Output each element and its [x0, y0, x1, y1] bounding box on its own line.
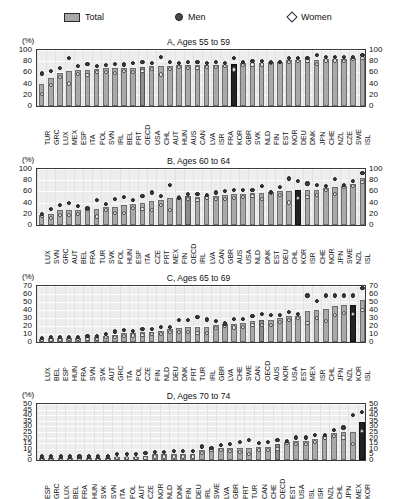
marker-men [104, 63, 108, 67]
y-axis-right: 05101520253035404550 [369, 403, 387, 461]
bar-total [222, 65, 228, 106]
bar-total [295, 60, 301, 106]
bar-total [250, 63, 256, 106]
marker-men [304, 436, 308, 440]
x-tick-label: HUN [91, 484, 98, 499]
x-axis-labels: LUXSVNGRCAUTBELFRATURSVKPOLHUNESPITACZEP… [36, 228, 366, 268]
x-tick-label: POL [135, 367, 142, 381]
x-tick-label: SWE [245, 365, 252, 381]
y-tick-label: 60 [23, 187, 32, 195]
bar-total [268, 192, 274, 225]
x-tick-label: LUX [62, 131, 69, 145]
marker-men [241, 317, 245, 321]
bar-total [213, 65, 219, 106]
x-tick-label: MEX [355, 484, 362, 499]
bar-total [66, 210, 72, 225]
legend-item-men: Men [175, 12, 206, 22]
marker-men [85, 62, 89, 66]
x-tick-label: CHL [336, 485, 343, 499]
women-marker-icon [286, 11, 297, 22]
marker-men [76, 204, 80, 208]
x-tick-label: DNK [264, 249, 271, 264]
y-axis-right: 020406080100 [369, 49, 387, 107]
x-tick-label: FRA [81, 485, 88, 499]
x-tick-label: SVN [110, 485, 117, 499]
x-tick-label: ISL [364, 134, 371, 145]
x-tick-label: TUR [251, 485, 258, 499]
y-tick-label: 80 [23, 57, 32, 65]
x-tick-label: KOR [364, 484, 371, 499]
bar-total [66, 71, 72, 106]
marker-men [259, 312, 263, 316]
marker-men [104, 202, 108, 206]
y-tick-label: 40 [23, 80, 32, 88]
marker-men [122, 328, 126, 332]
marker-men [39, 71, 43, 75]
marker-men [275, 438, 279, 442]
x-tick-label: FRA [89, 250, 96, 264]
x-tick-label: MEX [172, 249, 179, 264]
marker-men [360, 410, 364, 414]
y-tick-label: 10 [23, 330, 32, 338]
x-tick-label: NLD [254, 250, 261, 264]
marker-men [360, 171, 364, 175]
marker-men [287, 310, 291, 314]
x-tick-label: POL [117, 250, 124, 264]
y-tick-label: 20 [23, 210, 32, 218]
x-tick-label: DEU [282, 249, 289, 264]
marker-men [131, 198, 135, 202]
marker-men [247, 438, 251, 442]
x-tick-label: CHE [328, 130, 335, 145]
x-tick-label: LVA [223, 487, 230, 499]
marker-men [131, 61, 135, 65]
x-tick-label: ESP [135, 250, 142, 264]
gridline [37, 415, 365, 416]
marker-men [195, 60, 199, 64]
marker-men [168, 183, 172, 187]
marker-men [256, 441, 260, 445]
x-tick-label: NOR [282, 365, 289, 381]
marker-men [122, 62, 126, 66]
bar-total [176, 65, 182, 106]
vertical-gridline [37, 404, 38, 460]
vertical-gridline [56, 404, 57, 460]
x-tick-label: BEL [53, 368, 60, 381]
x-tick-label: IRL [117, 134, 124, 145]
x-tick-label: CZE [346, 131, 353, 145]
vertical-gridline [103, 404, 104, 460]
bar-total [360, 178, 366, 225]
y-tick-label: 80 [23, 176, 32, 184]
marker-men [186, 60, 190, 64]
x-tick-label: CAN [261, 484, 268, 499]
x-tick-label: EST [273, 250, 280, 264]
marker-men [232, 317, 236, 321]
bar-total [176, 198, 182, 225]
x-tick-label: PRT [163, 250, 170, 264]
bar-total [240, 63, 246, 106]
y-tick-label: 40 [369, 80, 378, 88]
vertical-gridline [55, 286, 56, 342]
x-tick-label: AUT [172, 131, 179, 145]
gridline [37, 286, 365, 287]
x-tick-label: FRA [227, 131, 234, 145]
marker-men [259, 184, 263, 188]
x-tick-label: CAN [254, 366, 261, 381]
x-tick-label: GRC [53, 483, 60, 499]
x-axis-labels: ESPGRCLUXBELFRAHUNSVKSVNITAPOLAUTCZENORN… [36, 463, 366, 499]
marker-men [305, 181, 309, 185]
legend-label-total: Total [85, 12, 104, 22]
marker-men [341, 425, 345, 429]
bar-total [359, 422, 365, 460]
marker-men [296, 179, 300, 183]
x-tick-label: ESP [80, 131, 87, 145]
x-tick-label: CHL [328, 367, 335, 381]
vertical-gridline [65, 404, 66, 460]
x-tick-label: AUS [190, 131, 197, 145]
panel-c: (%)C, Ages 65 to 69010203040506070010203… [0, 272, 397, 389]
marker-men [278, 185, 282, 189]
bar-total [350, 305, 356, 342]
x-tick-label: ESP [44, 485, 51, 499]
x-tick-label: HUN [181, 130, 188, 145]
y-tick-label: 80 [369, 176, 378, 184]
y-tick-label: 50 [23, 298, 32, 306]
